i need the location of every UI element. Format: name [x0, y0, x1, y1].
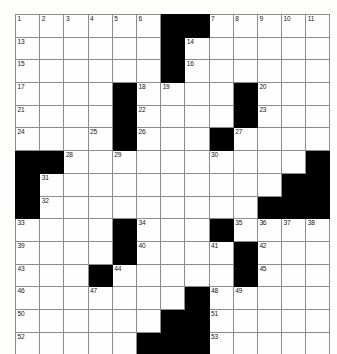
crossword-cell[interactable] [136, 309, 160, 332]
crossword-cell[interactable] [185, 264, 209, 287]
crossword-cell[interactable] [88, 151, 112, 174]
crossword-cell[interactable] [209, 196, 233, 219]
crossword-cell[interactable] [185, 241, 209, 264]
crossword-cell[interactable] [40, 219, 64, 242]
crossword-cell[interactable] [64, 83, 88, 106]
crossword-cell[interactable]: 37 [282, 219, 306, 242]
crossword-cell[interactable] [282, 332, 306, 354]
crossword-cell[interactable] [306, 83, 330, 106]
crossword-cell[interactable] [161, 264, 185, 287]
crossword-cell[interactable]: 10 [282, 15, 306, 38]
crossword-cell[interactable] [112, 60, 136, 83]
crossword-cell[interactable]: 31 [40, 173, 64, 196]
crossword-cell[interactable] [282, 105, 306, 128]
crossword-cell[interactable]: 11 [306, 15, 330, 38]
crossword-cell[interactable] [161, 219, 185, 242]
crossword-cell[interactable] [112, 37, 136, 60]
crossword-cell[interactable] [88, 196, 112, 219]
crossword-cell[interactable] [306, 128, 330, 151]
crossword-cell[interactable]: 36 [257, 219, 281, 242]
crossword-cell[interactable] [88, 83, 112, 106]
crossword-cell[interactable] [88, 105, 112, 128]
crossword-cell[interactable] [185, 196, 209, 219]
crossword-cell[interactable] [40, 83, 64, 106]
crossword-cell[interactable] [88, 173, 112, 196]
crossword-cell[interactable] [233, 309, 257, 332]
crossword-cell[interactable] [233, 196, 257, 219]
crossword-cell[interactable] [161, 151, 185, 174]
crossword-cell[interactable] [282, 128, 306, 151]
crossword-cell[interactable] [233, 173, 257, 196]
crossword-cell[interactable]: 3 [64, 15, 88, 38]
crossword-cell[interactable] [233, 37, 257, 60]
crossword-cell[interactable] [282, 83, 306, 106]
crossword-cell[interactable]: 47 [88, 287, 112, 310]
crossword-cell[interactable]: 29 [112, 151, 136, 174]
crossword-cell[interactable] [257, 332, 281, 354]
crossword-cell[interactable] [161, 241, 185, 264]
crossword-cell[interactable] [209, 83, 233, 106]
crossword-cell[interactable] [64, 241, 88, 264]
crossword-cell[interactable]: 13 [16, 37, 40, 60]
crossword-cell[interactable] [64, 309, 88, 332]
crossword-cell[interactable]: 48 [209, 287, 233, 310]
crossword-cell[interactable] [112, 173, 136, 196]
crossword-cell[interactable] [233, 60, 257, 83]
crossword-cell[interactable]: 15 [16, 60, 40, 83]
crossword-cell[interactable] [64, 37, 88, 60]
crossword-cell[interactable] [209, 173, 233, 196]
crossword-cell[interactable] [40, 60, 64, 83]
crossword-cell[interactable]: 39 [16, 241, 40, 264]
crossword-cell[interactable] [209, 37, 233, 60]
crossword-cell[interactable]: 19 [161, 83, 185, 106]
crossword-cell[interactable]: 43 [16, 264, 40, 287]
crossword-cell[interactable] [282, 309, 306, 332]
crossword-cell[interactable]: 2 [40, 15, 64, 38]
crossword-cell[interactable]: 42 [257, 241, 281, 264]
crossword-cell[interactable] [185, 151, 209, 174]
crossword-cell[interactable] [185, 128, 209, 151]
crossword-cell[interactable]: 4 [88, 15, 112, 38]
crossword-cell[interactable]: 28 [64, 151, 88, 174]
crossword-cell[interactable] [136, 287, 160, 310]
crossword-cell[interactable] [161, 173, 185, 196]
crossword-cell[interactable]: 24 [16, 128, 40, 151]
crossword-cell[interactable] [136, 196, 160, 219]
crossword-cell[interactable]: 40 [136, 241, 160, 264]
crossword-grid[interactable]: 1234567891011131415161718192021222324252… [15, 14, 330, 354]
crossword-cell[interactable] [282, 287, 306, 310]
crossword-cell[interactable] [40, 264, 64, 287]
crossword-cell[interactable] [88, 60, 112, 83]
crossword-cell[interactable]: 41 [209, 241, 233, 264]
crossword-cell[interactable]: 30 [209, 151, 233, 174]
crossword-cell[interactable]: 6 [136, 15, 160, 38]
crossword-cell[interactable] [40, 128, 64, 151]
crossword-cell[interactable] [282, 241, 306, 264]
crossword-cell[interactable] [112, 196, 136, 219]
crossword-cell[interactable] [257, 37, 281, 60]
crossword-cell[interactable]: 33 [16, 219, 40, 242]
crossword-cell[interactable] [306, 309, 330, 332]
crossword-cell[interactable]: 21 [16, 105, 40, 128]
crossword-cell[interactable] [282, 60, 306, 83]
crossword-cell[interactable] [112, 309, 136, 332]
crossword-cell[interactable]: 35 [233, 219, 257, 242]
crossword-cell[interactable] [306, 287, 330, 310]
crossword-cell[interactable] [306, 60, 330, 83]
crossword-cell[interactable] [257, 173, 281, 196]
crossword-cell[interactable] [209, 60, 233, 83]
crossword-cell[interactable]: 44 [112, 264, 136, 287]
crossword-cell[interactable] [257, 287, 281, 310]
crossword-cell[interactable] [306, 241, 330, 264]
crossword-cell[interactable]: 46 [16, 287, 40, 310]
crossword-cell[interactable] [64, 219, 88, 242]
crossword-cell[interactable] [64, 332, 88, 354]
crossword-cell[interactable]: 26 [136, 128, 160, 151]
crossword-cell[interactable] [185, 83, 209, 106]
crossword-cell[interactable] [306, 37, 330, 60]
crossword-cell[interactable] [161, 196, 185, 219]
crossword-cell[interactable] [136, 173, 160, 196]
crossword-cell[interactable] [185, 219, 209, 242]
crossword-cell[interactable] [88, 219, 112, 242]
crossword-cell[interactable]: 8 [233, 15, 257, 38]
